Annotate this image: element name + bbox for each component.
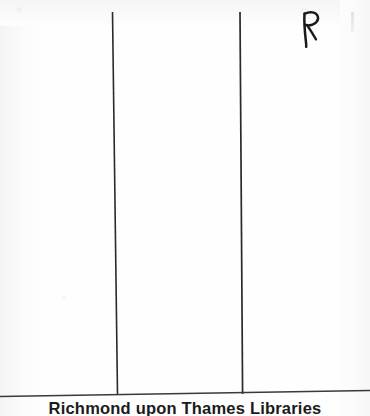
scan-speck [62, 296, 66, 299]
handwritten-r-icon [296, 7, 330, 51]
library-stamp-text: Richmond upon Thames Libraries [0, 399, 370, 416]
pencil-tick-mark [351, 12, 354, 32]
scanned-page: Richmond upon Thames Libraries [0, 0, 370, 416]
paper-shading-right [340, 0, 370, 416]
scan-speck [17, 7, 22, 12]
paper-background [0, 0, 370, 416]
paper-shading-left [0, 0, 44, 416]
